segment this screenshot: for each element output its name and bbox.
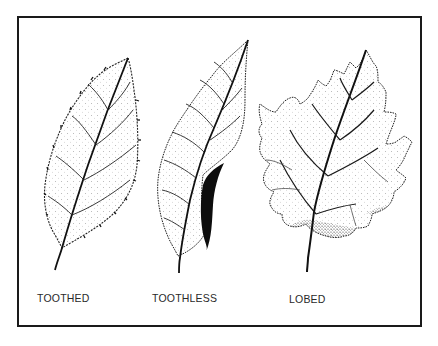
label-lobed: LOBED xyxy=(289,294,326,305)
toothed-leaf xyxy=(44,58,141,270)
lobed-leaf xyxy=(259,50,412,272)
toothless-leaf xyxy=(158,40,248,273)
label-toothless: TOOTHLESS xyxy=(152,293,217,304)
label-toothed: TOOTHED xyxy=(37,293,90,304)
